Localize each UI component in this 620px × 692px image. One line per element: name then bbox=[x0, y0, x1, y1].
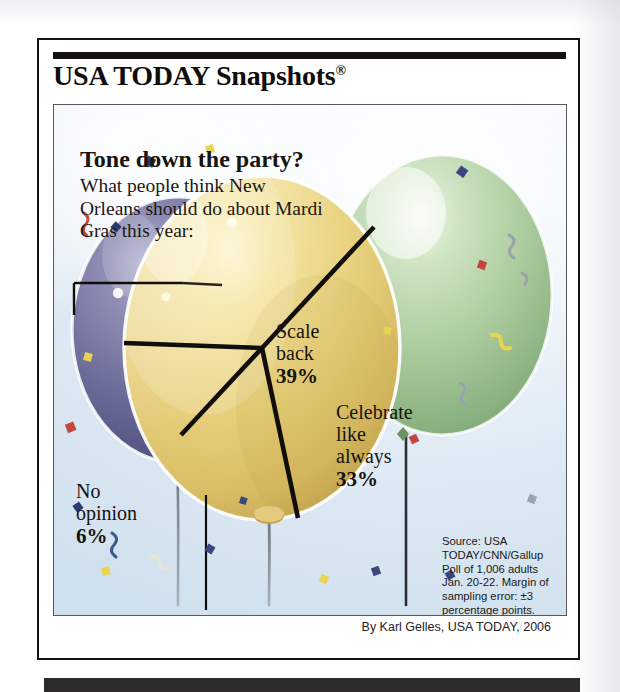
slice-label-celebrate-like-always: Celebrate like always 33% bbox=[336, 401, 413, 491]
slice-label-no-opinion-line1: No bbox=[76, 480, 137, 502]
source-note: Source: USA TODAY/CNN/Gallup Poll of 1,0… bbox=[442, 535, 552, 616]
slice-value-celebrate: 33% bbox=[336, 467, 413, 491]
page-title: Tone down the party? bbox=[80, 147, 304, 172]
slice-label-celebrate-line2: like bbox=[336, 423, 413, 445]
slice-label-scale-back-line2: back bbox=[276, 342, 319, 364]
snapshot-card: USA TODAY Snapshots® bbox=[37, 38, 580, 660]
registered-trademark-icon: ® bbox=[336, 63, 346, 78]
slice-label-celebrate-line3: always bbox=[336, 445, 413, 467]
page-footer-bar bbox=[44, 678, 580, 692]
slice-label-no-opinion-line2: opinion bbox=[76, 502, 137, 524]
slice-label-scale-back: Scale back 39% bbox=[276, 320, 319, 388]
slice-label-celebrate-line1: Celebrate bbox=[336, 401, 413, 423]
brand-title: USA TODAY Snapshots® bbox=[53, 62, 346, 90]
brand-title-text: USA TODAY Snapshots bbox=[53, 60, 336, 91]
page-subtitle: What people think New Orleans should do … bbox=[80, 175, 325, 243]
header-rule bbox=[53, 52, 566, 59]
slice-label-no-opinion: No opinion 6% bbox=[76, 480, 137, 548]
slice-label-scale-back-line1: Scale bbox=[276, 320, 319, 342]
byline: By Karl Gelles, USA TODAY, 2006 bbox=[39, 620, 553, 634]
slice-value-scale-back: 39% bbox=[276, 364, 319, 388]
illustration-panel: Tone down the party? What people think N… bbox=[53, 104, 567, 616]
slice-value-no-opinion: 6% bbox=[76, 524, 137, 548]
